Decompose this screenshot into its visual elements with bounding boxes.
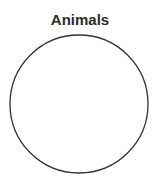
venn-diagram — [0, 0, 160, 182]
set-circle-animals — [10, 35, 148, 173]
